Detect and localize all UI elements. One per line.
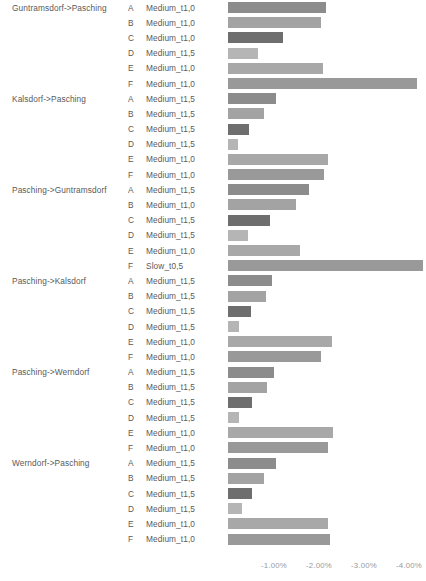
type-label: Medium_t1,0 xyxy=(146,428,228,438)
bar xyxy=(228,230,248,241)
type-label: Medium_t1,5 xyxy=(146,230,228,240)
scenario-label: F xyxy=(128,261,146,271)
type-label: Medium_t1,5 xyxy=(146,139,228,149)
chart-row: FSlow_t0,5 xyxy=(0,258,426,273)
type-label: Medium_t1,0 xyxy=(146,154,228,164)
chart-row: FMedium_t1,0 xyxy=(0,76,426,91)
bar xyxy=(228,48,258,59)
chart-row: FMedium_t1,0 xyxy=(0,167,426,182)
bar xyxy=(228,382,267,393)
bar-cell xyxy=(228,152,426,167)
bar-cell xyxy=(228,365,426,380)
type-label: Medium_t1,0 xyxy=(146,534,228,544)
route-label: Werndorf->Pasching xyxy=(0,458,128,468)
bar xyxy=(228,108,264,119)
chart-row: Werndorf->PaschingAMedium_t1,5 xyxy=(0,456,426,471)
scenario-label: F xyxy=(128,534,146,544)
scenario-label: B xyxy=(128,473,146,483)
scenario-label: C xyxy=(128,489,146,499)
x-tick-label: -1.00% xyxy=(261,561,287,570)
chart-row: BMedium_t1,5 xyxy=(0,471,426,486)
type-label: Medium_t1,5 xyxy=(146,473,228,483)
type-label: Medium_t1,5 xyxy=(146,504,228,514)
bar-cell xyxy=(228,213,426,228)
scenario-label: C xyxy=(128,306,146,316)
chart-row: DMedium_t1,5 xyxy=(0,319,426,334)
bar xyxy=(228,63,323,74)
chart-row: BMedium_t1,5 xyxy=(0,289,426,304)
bar-cell xyxy=(228,349,426,364)
bar-cell xyxy=(228,61,426,76)
scenario-label: B xyxy=(128,291,146,301)
chart-row: BMedium_t1,5 xyxy=(0,380,426,395)
route-label: Pasching->Kalsdorf xyxy=(0,276,128,286)
type-label: Medium_t1,0 xyxy=(146,63,228,73)
bar xyxy=(228,291,266,302)
scenario-label: D xyxy=(128,504,146,514)
scenario-label: C xyxy=(128,397,146,407)
type-label: Medium_t1,5 xyxy=(146,94,228,104)
scenario-label: E xyxy=(128,337,146,347)
bar xyxy=(228,442,328,453)
type-label: Medium_t1,5 xyxy=(146,458,228,468)
x-axis: -1.00%-2.00%-3.00%-4.00% xyxy=(229,561,426,575)
scenario-label: E xyxy=(128,154,146,164)
bar xyxy=(228,245,300,256)
scenario-label: C xyxy=(128,215,146,225)
chart-row: CMedium_t1,5 xyxy=(0,304,426,319)
bar-cell xyxy=(228,501,426,516)
type-label: Medium_t1,5 xyxy=(146,48,228,58)
scenario-label: F xyxy=(128,170,146,180)
type-label: Medium_t1,0 xyxy=(146,170,228,180)
bar-cell xyxy=(228,410,426,425)
bar xyxy=(228,412,239,423)
bar-cell xyxy=(228,471,426,486)
scenario-label: E xyxy=(128,519,146,529)
scenario-label: E xyxy=(128,246,146,256)
x-tick-label: -3.00% xyxy=(351,561,377,570)
type-label: Medium_t1,0 xyxy=(146,519,228,529)
bar-cell xyxy=(228,0,426,15)
chart-row: BMedium_t1,0 xyxy=(0,197,426,212)
bar-cell xyxy=(228,532,426,547)
chart-row: FMedium_t1,0 xyxy=(0,349,426,364)
type-label: Medium_t1,0 xyxy=(146,200,228,210)
bar xyxy=(228,306,251,317)
chart-row: Pasching->KalsdorfAMedium_t1,5 xyxy=(0,273,426,288)
bar xyxy=(228,215,270,226)
chart-row: EMedium_t1,0 xyxy=(0,516,426,531)
bar xyxy=(228,154,328,165)
type-label: Medium_t1,0 xyxy=(146,18,228,28)
bar-cell xyxy=(228,456,426,471)
chart-row: CMedium_t1,5 xyxy=(0,122,426,137)
route-label: Pasching->Werndorf xyxy=(0,367,128,377)
scenario-label: A xyxy=(128,276,146,286)
bar xyxy=(228,336,332,347)
bar-cell xyxy=(228,395,426,410)
scenario-label: E xyxy=(128,428,146,438)
bar xyxy=(228,503,242,514)
bar-cell xyxy=(228,486,426,501)
bar-cell xyxy=(228,91,426,106)
type-label: Medium_t1,5 xyxy=(146,291,228,301)
bar-cell xyxy=(228,304,426,319)
scenario-label: D xyxy=(128,413,146,423)
chart-row: BMedium_t1,5 xyxy=(0,106,426,121)
type-label: Medium_t1,0 xyxy=(146,33,228,43)
chart-row: FMedium_t1,0 xyxy=(0,440,426,455)
bar xyxy=(228,473,264,484)
scenario-label: D xyxy=(128,230,146,240)
bar xyxy=(228,488,252,499)
chart-row: DMedium_t1,5 xyxy=(0,137,426,152)
type-label: Medium_t1,5 xyxy=(146,322,228,332)
type-label: Medium_t1,5 xyxy=(146,276,228,286)
chart-row: Pasching->GuntramsdorfAMedium_t1,5 xyxy=(0,182,426,197)
scenario-label: A xyxy=(128,94,146,104)
scenario-label: C xyxy=(128,124,146,134)
type-label: Medium_t1,5 xyxy=(146,413,228,423)
scenario-label: B xyxy=(128,200,146,210)
type-label: Medium_t1,0 xyxy=(146,246,228,256)
chart-row: CMedium_t1,5 xyxy=(0,486,426,501)
route-label: Pasching->Guntramsdorf xyxy=(0,185,128,195)
scenario-label: C xyxy=(128,33,146,43)
